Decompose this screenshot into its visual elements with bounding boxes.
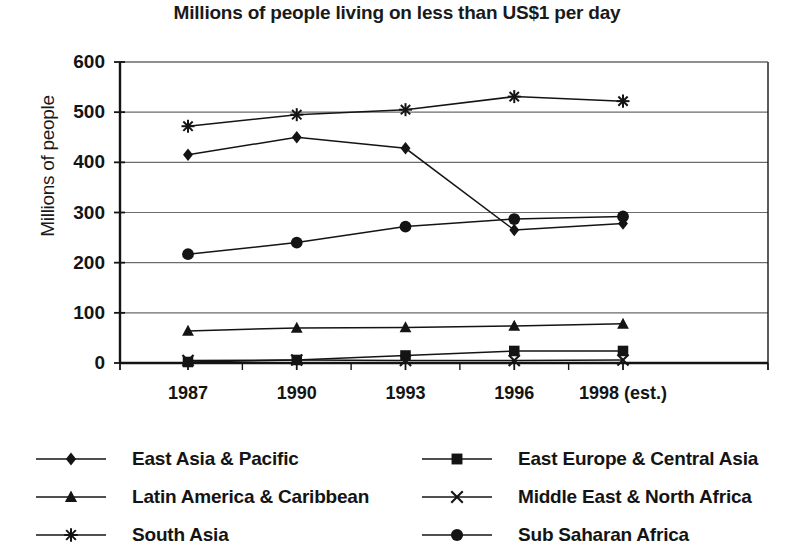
y-axis-tick-100: 100: [45, 303, 105, 322]
legend-item-x[interactable]: Middle East & North Africa: [420, 478, 758, 516]
diamond-marker-shape: [401, 142, 411, 154]
legend-column-left: East Asia & PacificLatin America & Carib…: [34, 440, 369, 554]
legend-item-triangle[interactable]: Latin America & Caribbean: [34, 478, 369, 516]
legend-sample-svg: [34, 523, 112, 547]
legend-column-right: East Europe & Central AsiaMiddle East & …: [420, 440, 758, 554]
legend-item-diamond[interactable]: East Asia & Pacific: [34, 440, 369, 478]
triangle-icon: [34, 485, 112, 509]
square-icon: [420, 447, 498, 471]
asterisk-icon: [34, 523, 112, 547]
circle-marker-shape: [291, 237, 303, 249]
circle-marker-shape: [617, 211, 629, 223]
chart-plot-area: Millions of people 0100200300400500600 1…: [0, 0, 794, 430]
y-axis-tick-300: 300: [45, 203, 105, 222]
x-axis-tick-1: 1990: [277, 383, 317, 404]
square-marker-shape: [452, 454, 463, 465]
circle-icon: [420, 523, 498, 547]
legend-item-asterisk[interactable]: South Asia: [34, 516, 369, 554]
x-axis-tick-2: 1993: [385, 383, 425, 404]
y-axis-tick-labels: 0100200300400500600: [45, 0, 105, 430]
x-axis-tick-3: 1996: [494, 383, 534, 404]
circle-marker-shape: [451, 529, 463, 541]
legend-sample-svg: [420, 523, 498, 547]
diamond-marker-shape: [183, 149, 193, 161]
square-marker-shape: [509, 346, 520, 357]
x-axis-tick-0: 1987: [168, 383, 208, 404]
y-axis-tick-0: 0: [45, 353, 105, 372]
legend-item-label: Middle East & North Africa: [498, 486, 752, 508]
chart-svg: [0, 0, 794, 430]
y-axis-tick-600: 600: [45, 52, 105, 71]
legend-item-circle[interactable]: Sub Saharan Africa: [420, 516, 758, 554]
legend-item-square[interactable]: East Europe & Central Asia: [420, 440, 758, 478]
diamond-marker-shape: [66, 453, 76, 466]
y-axis-tick-500: 500: [45, 102, 105, 121]
x-axis-tick-4: 1998 (est.): [579, 383, 667, 404]
diamond-marker-shape: [509, 224, 519, 236]
square-marker-shape: [183, 357, 194, 368]
square-marker-shape: [618, 346, 629, 357]
circle-marker-shape: [182, 248, 194, 260]
y-axis-tick-200: 200: [45, 253, 105, 272]
legend-item-label: South Asia: [112, 524, 229, 546]
legend-item-label: Latin America & Caribbean: [112, 486, 369, 508]
legend-item-label: East Europe & Central Asia: [498, 448, 758, 470]
circle-marker-shape: [400, 221, 412, 233]
legend-item-label: Sub Saharan Africa: [498, 524, 689, 546]
legend-sample-svg: [34, 485, 112, 509]
legend-sample-svg: [420, 447, 498, 471]
legend-item-label: East Asia & Pacific: [112, 448, 299, 470]
diamond-icon: [34, 447, 112, 471]
legend-sample-svg: [420, 485, 498, 509]
legend-sample-svg: [34, 447, 112, 471]
chart-legend: East Asia & PacificLatin America & Carib…: [0, 440, 794, 556]
x-icon: [420, 485, 498, 509]
circle-marker-shape: [508, 213, 520, 225]
diamond-marker-shape: [292, 131, 302, 143]
y-axis-tick-400: 400: [45, 152, 105, 171]
